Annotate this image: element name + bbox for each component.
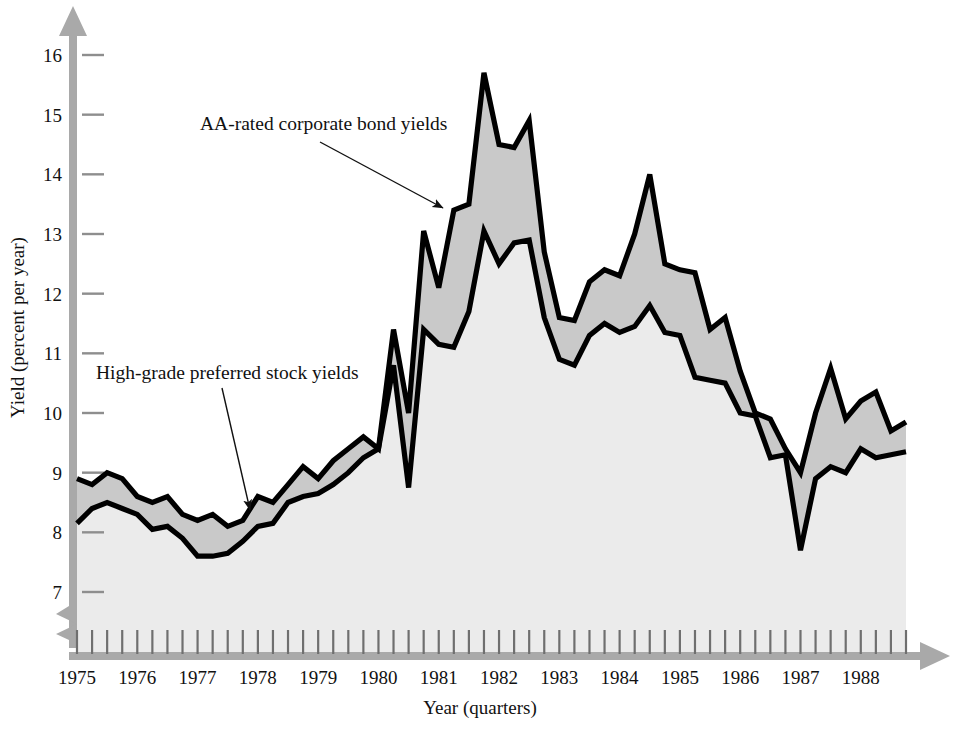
x-tick-label: 1984: [601, 667, 640, 688]
x-tick-label: 1981: [420, 667, 458, 688]
x-axis-title: Year (quarters): [423, 697, 537, 719]
y-tick-label: 9: [53, 463, 63, 484]
x-tick-label: 1978: [239, 667, 277, 688]
x-tick-label: 1985: [661, 667, 699, 688]
y-axis-title: Yield (percent per year): [7, 237, 29, 418]
annotation-label-aa-rated: AA-rated corporate bond yields: [200, 113, 447, 134]
y-tick-label: 8: [53, 522, 63, 543]
x-axis-arrow-icon: [920, 642, 950, 670]
x-tick-label: 1986: [721, 667, 759, 688]
y-tick-label-group: 78910111213141516: [43, 45, 63, 603]
y-tick-label: 11: [44, 343, 62, 364]
y-tick-label: 16: [43, 45, 62, 66]
y-tick-label: 13: [43, 224, 62, 245]
x-tick-label: 1983: [540, 667, 578, 688]
x-tick-label-group: 1975197619771978197919801981198219831984…: [58, 667, 880, 688]
x-tick-label: 1979: [299, 667, 337, 688]
x-tick-label: 1988: [842, 667, 880, 688]
annotation-label-high-grade: High-grade preferred stock yields: [96, 362, 359, 383]
y-tick-label: 7: [53, 582, 63, 603]
x-tick-label: 1987: [781, 667, 819, 688]
y-tick-label: 14: [43, 164, 63, 185]
x-tick-label: 1975: [58, 667, 96, 688]
y-axis-arrow-icon: [59, 6, 87, 36]
y-tick-label: 15: [43, 105, 62, 126]
yield-comparison-chart-figure: 78910111213141516 1975197619771978197919…: [0, 0, 959, 734]
x-tick-label: 1980: [359, 667, 397, 688]
annotation-leader-line-aa-rated: [320, 142, 443, 208]
annotation-aa-rated-corporate-bond-yields: AA-rated corporate bond yields: [200, 113, 447, 208]
annotation-leader-line-high-grade: [222, 388, 250, 510]
y-tick-label: 12: [43, 284, 62, 305]
x-tick-label: 1977: [179, 667, 217, 688]
x-tick-label: 1976: [118, 667, 156, 688]
y-tick-label: 10: [43, 403, 62, 424]
x-tick-label: 1982: [480, 667, 518, 688]
chart-svg: 78910111213141516 1975197619771978197919…: [0, 0, 959, 734]
